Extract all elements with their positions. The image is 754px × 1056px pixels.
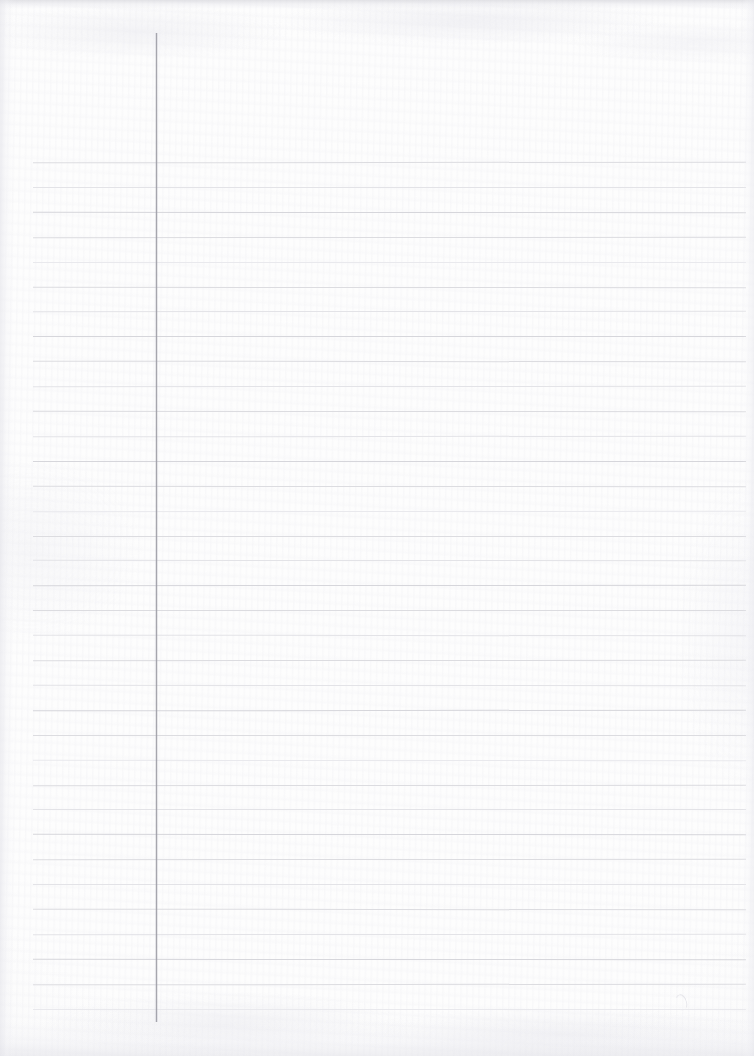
paper-background xyxy=(0,0,754,1056)
left-margin-rule xyxy=(156,33,157,1022)
scanned-notebook-page xyxy=(0,0,754,1056)
